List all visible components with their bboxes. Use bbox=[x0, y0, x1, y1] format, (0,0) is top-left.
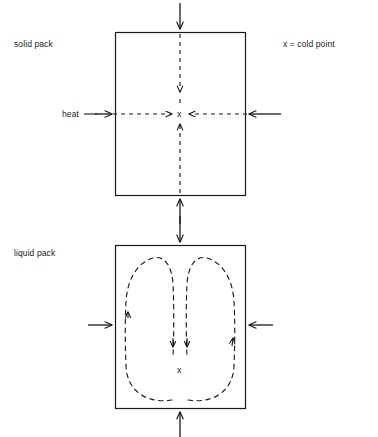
liquid-pack-group bbox=[88, 216, 273, 437]
liquid-pack-convection-loop-left bbox=[125, 258, 174, 401]
liquid-pack-convection-loop-right bbox=[186, 258, 235, 401]
diagram-svg bbox=[0, 0, 378, 437]
liquid-pack-cold-point-mark: x bbox=[177, 366, 182, 375]
heat-label: heat bbox=[62, 110, 79, 119]
cold-point-legend: x = cold point bbox=[283, 40, 335, 49]
solid-pack-label: solid pack bbox=[14, 40, 53, 49]
diagram-canvas: solid pack liquid pack x = cold point he… bbox=[0, 0, 378, 437]
liquid-pack-convection-arrow-right-up bbox=[232, 338, 233, 346]
solid-pack-cold-point-mark: x bbox=[177, 110, 182, 119]
solid-pack-group bbox=[84, 3, 281, 224]
liquid-pack-label: liquid pack bbox=[14, 249, 55, 258]
liquid-pack-container bbox=[116, 246, 246, 409]
